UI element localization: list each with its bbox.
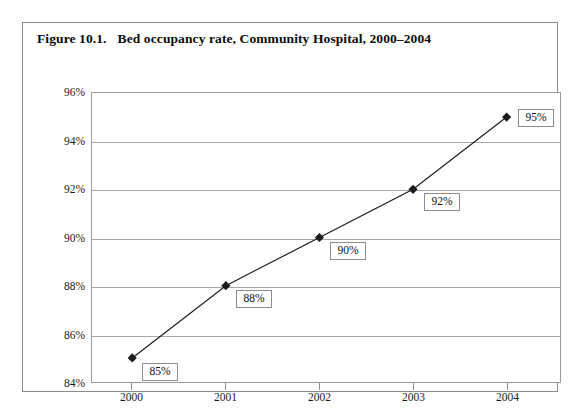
data-label: 90% xyxy=(330,242,365,260)
x-tick-mark xyxy=(413,383,414,390)
x-tick-mark xyxy=(225,383,226,390)
figure-title: Figure 10.1.Bed occupancy rate, Communit… xyxy=(37,31,431,47)
line-series xyxy=(92,93,560,382)
data-label: 88% xyxy=(236,290,271,308)
x-tick-mark xyxy=(319,383,320,390)
y-tick-label: 94% xyxy=(41,135,85,147)
x-tick-mark xyxy=(507,383,508,390)
x-axis: 20002001200220032004 xyxy=(91,383,561,409)
y-tick-label: 86% xyxy=(41,329,85,341)
y-axis: 96%94%92%90%88%86%84% xyxy=(33,92,85,383)
data-label: 92% xyxy=(424,193,459,211)
x-tick-label: 2001 xyxy=(195,391,255,403)
x-tick-label: 2004 xyxy=(477,391,537,403)
x-tick-label: 2000 xyxy=(101,391,161,403)
x-tick-mark xyxy=(131,383,132,390)
y-tick-label: 96% xyxy=(41,86,85,98)
y-tick-label: 92% xyxy=(41,183,85,195)
x-tick-label: 2002 xyxy=(289,391,349,403)
x-tick-label: 2003 xyxy=(383,391,443,403)
data-point-marker xyxy=(315,233,324,242)
y-tick-label: 84% xyxy=(41,377,85,389)
figure-title-text: Bed occupancy rate, Community Hospital, … xyxy=(118,31,432,46)
plot-area: 85%88%90%92%95% xyxy=(91,92,561,383)
data-label: 85% xyxy=(142,363,177,381)
figure-frame: Figure 10.1.Bed occupancy rate, Communit… xyxy=(22,22,558,392)
data-label: 95% xyxy=(518,109,553,127)
figure-number: Figure 10.1. xyxy=(37,31,107,46)
y-tick-label: 90% xyxy=(41,232,85,244)
y-tick-label: 88% xyxy=(41,280,85,292)
